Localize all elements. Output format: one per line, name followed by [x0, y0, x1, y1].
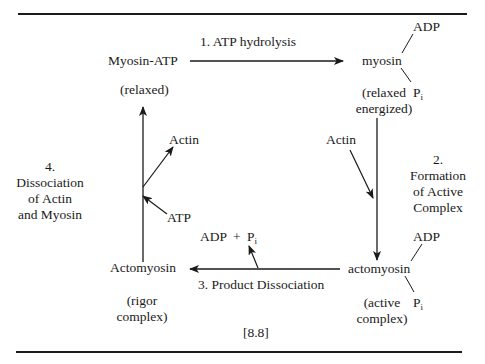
myosin-atp-label: Myosin-ATP [108, 53, 178, 69]
step4-label: 4. Dissociation of Actin and Myosin [14, 159, 86, 223]
myosin-pi-sub: i [421, 92, 424, 102]
actomyosin-active-label: actomyosin [348, 261, 410, 277]
myosin-state: (relaxed energized) [352, 85, 416, 117]
actin-input-label: Actin [326, 132, 356, 148]
arrow-actin-in [350, 150, 373, 198]
actomyosin-pi: Pi [413, 295, 423, 315]
actomyosin-rigor-state: (rigor complex) [111, 293, 173, 325]
actomyosin-rigor-label: Actomyosin [110, 260, 176, 276]
bond-myosin-adp [402, 34, 413, 53]
step4-num: 4. [14, 159, 86, 175]
arrow-atp-in [143, 196, 167, 214]
step1-label: 1. ATP hydrolysis [200, 34, 296, 50]
actomyosin-rigor-state-line1: (rigor [111, 293, 173, 309]
step2-line2: of Active [405, 184, 471, 200]
actomyosin-active-state-line2: complex) [352, 311, 412, 327]
arrow-actin-out [143, 147, 173, 187]
step4-line2: of Actin [14, 191, 86, 207]
atp-input-label: ATP [167, 210, 191, 226]
actomyosin-rigor-state-line2: complex) [111, 309, 173, 325]
step4-line1: Dissociation [14, 175, 86, 191]
myosin-label: myosin [362, 53, 402, 69]
actomyosin-pi-p: P [413, 295, 421, 310]
bond-actomyosin-pi [405, 276, 414, 292]
step3-products: ADP + Pi [200, 229, 257, 249]
product-pi-sub: i [254, 236, 257, 246]
step2-label: 2. Formation of Active Complex [405, 152, 471, 216]
step4-line3: and Myosin [14, 207, 86, 223]
actomyosin-active-state-line1: (active [352, 295, 412, 311]
step2-line3: Complex [405, 200, 471, 216]
product-adp: ADP [200, 229, 227, 244]
step3-label: 3. Product Dissociation [198, 277, 324, 293]
step2-num: 2. [405, 152, 471, 168]
bond-actomyosin-adp [411, 244, 422, 261]
myosin-adp: ADP [413, 19, 440, 35]
myosin-state-line2: energized) [352, 101, 416, 117]
myosin-state-line1: (relaxed [352, 85, 416, 101]
step2-line1: Formation [405, 168, 471, 184]
product-plus: + [233, 229, 241, 244]
bond-myosin-pi [401, 68, 411, 82]
myosin-atp-state: (relaxed) [120, 82, 169, 98]
actomyosin-pi-sub: i [421, 302, 424, 312]
actomyosin-adp: ADP [413, 229, 440, 245]
figure-label: [8.8] [243, 325, 269, 341]
actin-output-label: Actin [169, 132, 199, 148]
actomyosin-active-state: (active complex) [352, 295, 412, 327]
arrow-products-out [249, 246, 258, 268]
